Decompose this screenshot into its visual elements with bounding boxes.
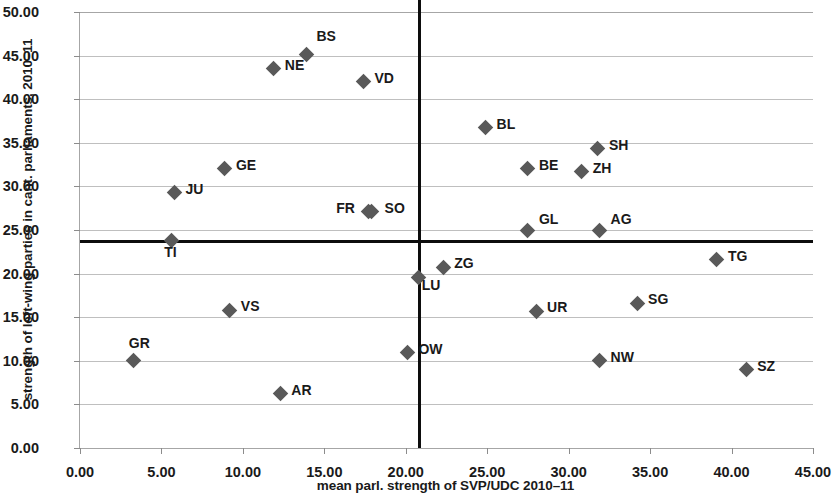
data-point-marker[interactable]: [356, 74, 372, 90]
gridline-horizontal: [80, 230, 813, 231]
y-axis-tick-label: 35.00: [0, 136, 39, 151]
data-point-label: OW: [418, 342, 442, 356]
data-point-label: SG: [648, 292, 668, 306]
x-axis-tick: [243, 448, 244, 454]
gridline-horizontal: [80, 448, 813, 449]
data-point-marker[interactable]: [592, 222, 608, 238]
y-axis-tick: [74, 230, 80, 231]
x-axis-tick: [324, 448, 325, 454]
data-point-marker[interactable]: [478, 120, 494, 136]
data-point-marker[interactable]: [709, 252, 725, 268]
y-axis-tick: [74, 56, 80, 57]
data-point-label: UR: [547, 300, 567, 314]
y-axis-tick-label: 15.00: [0, 310, 39, 325]
data-point-marker[interactable]: [629, 295, 645, 311]
gridline-horizontal: [80, 317, 813, 318]
data-point-label: BL: [497, 117, 516, 131]
y-axis-tick: [74, 361, 80, 362]
x-axis-tick: [569, 448, 570, 454]
data-point-marker[interactable]: [520, 222, 536, 238]
y-axis-tick: [74, 404, 80, 405]
gridline-horizontal: [80, 99, 813, 100]
data-point-marker[interactable]: [738, 362, 754, 378]
data-point-label: VD: [374, 71, 393, 85]
y-axis-tick-label: 20.00: [0, 267, 39, 282]
data-point-marker[interactable]: [400, 345, 416, 361]
y-axis-tick: [74, 99, 80, 100]
data-point-label: GR: [129, 336, 150, 350]
data-point-label: SH: [609, 138, 628, 152]
data-point-label: JU: [185, 182, 203, 196]
data-point-label: SZ: [757, 359, 775, 373]
y-axis-tick: [74, 143, 80, 144]
reference-line-horizontal: [80, 240, 813, 243]
y-axis-tick-label: 40.00: [0, 92, 39, 107]
plot-area: 0.005.0010.0015.0020.0025.0030.0035.0040…: [79, 12, 813, 448]
data-point-label: LU: [422, 278, 441, 292]
y-axis-tick: [74, 12, 80, 13]
y-axis-tick-label: 10.00: [0, 354, 39, 369]
x-axis-title: mean parl. strength of SVP/UDC 2010–11: [79, 478, 812, 493]
x-axis-tick: [80, 448, 81, 454]
data-point-label: FR: [336, 201, 355, 215]
gridline-horizontal: [80, 274, 813, 275]
data-point-label: VS: [241, 299, 260, 313]
data-point-label: ZG: [454, 256, 473, 270]
x-axis-tick: [650, 448, 651, 454]
data-point-marker[interactable]: [273, 386, 289, 402]
reference-line-vertical: [418, 0, 421, 448]
data-point-label: TG: [728, 249, 747, 263]
y-axis-tick: [74, 274, 80, 275]
data-point-label: AG: [611, 212, 632, 226]
y-axis-tick-label: 50.00: [0, 5, 39, 20]
gridline-horizontal: [80, 143, 813, 144]
data-point-marker[interactable]: [592, 353, 608, 369]
data-point-label: SO: [385, 201, 405, 215]
x-axis-tick: [487, 448, 488, 454]
scatter-chart: strength of left-wing parties in cant. p…: [0, 0, 836, 503]
y-axis-tick: [74, 317, 80, 318]
data-point-marker[interactable]: [574, 164, 590, 180]
data-point-marker[interactable]: [520, 161, 536, 177]
data-point-label: ZH: [593, 161, 612, 175]
y-axis-tick-label: 0.00: [0, 441, 39, 456]
data-point-marker[interactable]: [217, 161, 233, 177]
data-point-label: GE: [236, 158, 256, 172]
y-axis-tick-label: 30.00: [0, 179, 39, 194]
y-axis-tick-label: 25.00: [0, 223, 39, 238]
data-point-label: BS: [316, 29, 335, 43]
data-point-label: AR: [291, 383, 311, 397]
data-point-label: BE: [539, 158, 558, 172]
gridline-horizontal: [80, 12, 813, 13]
y-axis-tick-label: 45.00: [0, 49, 39, 64]
data-point-label: GL: [539, 212, 558, 226]
data-point-marker[interactable]: [266, 61, 282, 77]
gridline-horizontal: [80, 361, 813, 362]
y-axis-tick-label: 5.00: [0, 397, 39, 412]
x-axis-tick: [813, 448, 814, 454]
x-axis-tick: [406, 448, 407, 454]
data-point-marker[interactable]: [222, 302, 238, 318]
x-axis-tick: [161, 448, 162, 454]
data-point-label: NE: [285, 58, 304, 72]
data-point-marker[interactable]: [126, 353, 142, 369]
data-point-label: TI: [164, 245, 176, 259]
data-point-label: NW: [611, 350, 634, 364]
gridline-horizontal: [80, 404, 813, 405]
y-axis-tick: [74, 186, 80, 187]
x-axis-tick: [732, 448, 733, 454]
gridline-horizontal: [80, 56, 813, 57]
